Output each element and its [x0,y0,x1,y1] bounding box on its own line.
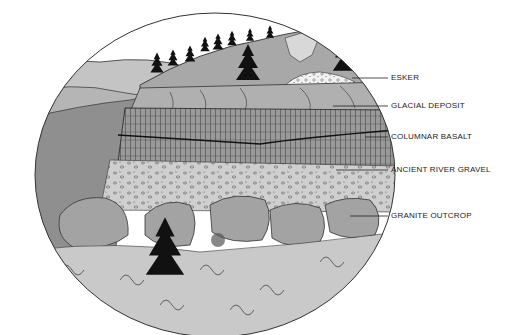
shrub [211,233,225,247]
label-columnar-basalt: COLUMNAR BASALT [391,132,472,142]
label-esker: ESKER [391,73,419,83]
label-granite-outcrop: GRANITE OUTCROP [391,211,472,221]
label-ancient-river-gravel: ANCIENT RIVER GRAVEL [391,165,491,175]
label-glacial-deposit: GLACIAL DEPOSIT [391,101,465,111]
